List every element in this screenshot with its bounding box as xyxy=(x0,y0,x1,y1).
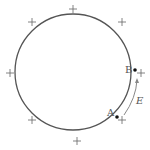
plus-charge-icon xyxy=(118,116,126,124)
plus-charge-icon xyxy=(137,69,145,77)
plus-charge-icon xyxy=(6,69,14,77)
arrowhead-icon xyxy=(135,78,139,83)
plus-charge-icon xyxy=(118,18,126,26)
charges xyxy=(6,5,145,145)
plus-charge-icon xyxy=(73,137,81,145)
label-a: A xyxy=(106,107,115,118)
plus-charge-icon xyxy=(69,5,77,13)
plus-charge-icon xyxy=(28,116,36,124)
label-b: B xyxy=(125,64,132,75)
label-e: E xyxy=(135,95,144,106)
ring-diagram: A B E xyxy=(0,0,150,150)
plus-charge-icon xyxy=(28,18,36,26)
point-b xyxy=(133,68,137,72)
point-a xyxy=(115,115,119,119)
